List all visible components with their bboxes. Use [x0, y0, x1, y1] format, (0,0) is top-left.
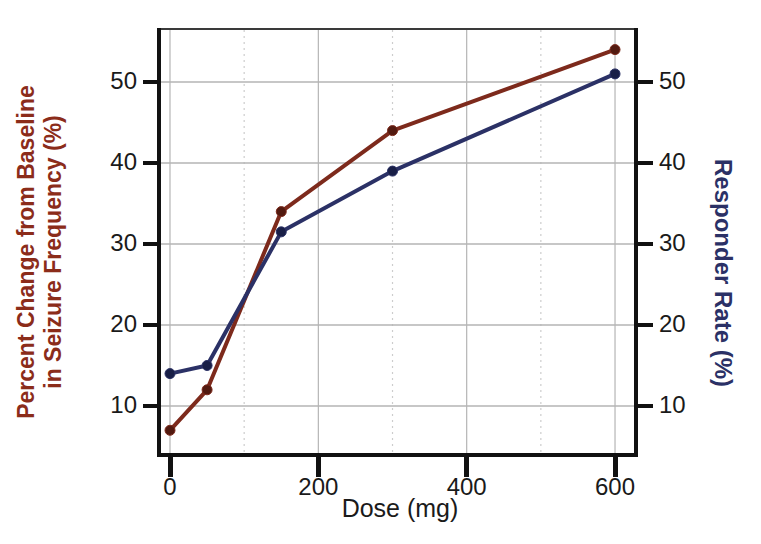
data-point-responder-rate-150mg — [276, 227, 286, 237]
y-axis-tick-left-10 — [143, 404, 158, 408]
data-point-responder-rate-600mg — [610, 69, 620, 79]
y-axis-tick-left-40 — [143, 161, 158, 165]
y-tick-label-left-30: 30 — [55, 230, 137, 256]
y-axis-tick-left-20 — [143, 323, 158, 327]
data-point-responder-rate-300mg — [388, 166, 398, 176]
frame-top — [157, 28, 638, 30]
y-tick-label-left-10: 10 — [55, 392, 137, 418]
y-tick-label-right-40: 40 — [659, 149, 719, 175]
y-tick-label-right-30: 30 — [659, 230, 719, 256]
data-point-seizure-frequency-50mg — [202, 385, 212, 395]
right-axis-title: Responder Rate (%) — [709, 159, 737, 387]
y-tick-label-right-50: 50 — [659, 68, 719, 94]
y-axis-tick-left-30 — [143, 242, 158, 246]
data-point-seizure-frequency-150mg — [276, 207, 286, 217]
data-point-seizure-frequency-300mg — [388, 126, 398, 136]
y-axis-tick-right-30 — [637, 242, 653, 246]
y-axis-tick-right-20 — [637, 323, 653, 327]
left-axis-title-line1: Percent Change from Baseline — [13, 85, 40, 419]
data-point-seizure-frequency-600mg — [610, 45, 620, 55]
y-axis-tick-left-50 — [143, 80, 158, 84]
y-tick-label-left-40: 40 — [55, 149, 137, 175]
plot-area — [157, 28, 638, 457]
y-tick-label-left-20: 20 — [55, 311, 137, 337]
frame-bottom-axis — [157, 453, 638, 457]
y-axis-tick-right-50 — [637, 80, 653, 84]
y-tick-label-right-20: 20 — [659, 311, 719, 337]
x-tick-label-400: 400 — [422, 474, 512, 500]
x-tick-label-600: 600 — [570, 474, 660, 500]
x-tick-label-0: 0 — [125, 474, 215, 500]
data-point-responder-rate-50mg — [202, 361, 212, 371]
dose-response-chart: Percent Change from Baseline in Seizure … — [0, 0, 761, 544]
y-axis-tick-right-10 — [637, 404, 653, 408]
y-tick-label-left-50: 50 — [55, 68, 137, 94]
x-tick-label-200: 200 — [273, 474, 363, 500]
y-tick-label-right-10: 10 — [659, 392, 719, 418]
y-axis-tick-right-40 — [637, 161, 653, 165]
data-point-responder-rate-0mg — [165, 369, 175, 379]
data-point-seizure-frequency-0mg — [165, 425, 175, 435]
